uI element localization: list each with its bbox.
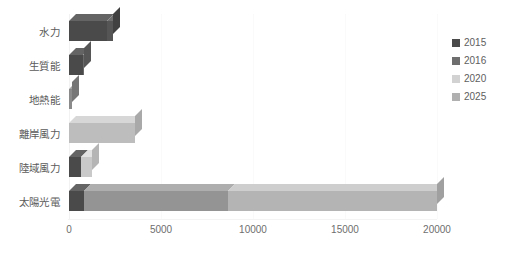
bar-stack[interactable] [69,55,84,75]
bar-segment-side-face [84,41,91,68]
bar-segment[interactable] [228,191,437,211]
x-tick-label: 0 [66,224,72,235]
legend-label: 2016 [464,56,486,66]
legend-label: 2020 [464,74,486,84]
bar-row: 離岸風力 [69,116,437,150]
legend-item[interactable]: 2025 [452,89,512,105]
bar-segment-side-face [92,143,99,170]
chart-container: 水力生質能地熱能離岸風力陸域風力太陽光電 0500010000150002000… [0,0,516,256]
legend-swatch-icon [452,57,460,65]
x-tick-label: 5000 [150,224,172,235]
bar-row: 地熱能 [69,82,437,116]
bar-row: 太陽光電 [69,184,437,218]
legend-item[interactable]: 2016 [452,53,512,69]
bar-segment[interactable] [107,21,113,41]
bar-segment-front-face [81,157,92,177]
bar-segment-side-face [113,7,120,34]
legend-swatch-icon [452,93,460,101]
bar-segment[interactable] [84,191,228,211]
bar-segment-top-face [69,116,142,123]
bar-stack[interactable] [69,89,72,109]
legend-label: 2015 [464,38,486,48]
bar-stack[interactable] [69,21,113,41]
bar-segment[interactable] [69,157,81,177]
bar-segment[interactable] [69,89,72,109]
bar-segment-front-face [84,191,228,211]
plot-area: 水力生質能地熱能離岸風力陸域風力太陽光電 [69,14,437,219]
x-tick-label: 10000 [239,224,267,235]
bar-segment[interactable] [81,157,92,177]
bar-row: 水力 [69,14,437,48]
category-label: 生質能 [29,58,60,73]
bar-segment-front-face [69,123,135,143]
bar-segment[interactable] [69,21,107,41]
bar-row: 陸域風力 [69,150,437,184]
legend-swatch-icon [452,39,460,47]
legend-label: 2025 [464,92,486,102]
bar-segment-top-face [228,184,444,191]
bar-row: 生質能 [69,48,437,82]
bar-segment-front-face [228,191,437,211]
category-label: 離岸風力 [19,126,60,141]
bar-segment-top-face [84,184,235,191]
bar-segment-side-face [437,177,444,204]
bar-segment-front-face [69,21,107,41]
bar-segment-front-face [69,157,81,177]
chart-legend: 2015201620202025 [452,35,512,107]
bar-segment-front-face [69,191,84,211]
x-tick-label: 15000 [331,224,359,235]
legend-swatch-icon [452,75,460,83]
x-tick-label: 20000 [423,224,451,235]
category-label: 地熱能 [29,92,60,107]
x-axis-line [68,219,437,220]
bar-stack[interactable] [69,191,437,211]
legend-item[interactable]: 2015 [452,35,512,51]
bar-segment[interactable] [69,55,83,75]
bar-segment[interactable] [83,55,84,75]
bar-stack[interactable] [69,157,92,177]
bar-segment[interactable] [69,123,135,143]
legend-item[interactable]: 2020 [452,71,512,87]
category-label: 水力 [39,24,60,39]
bar-segment[interactable] [69,191,84,211]
category-label: 太陽光電 [19,194,60,209]
bar-stack[interactable] [69,123,135,143]
category-label: 陸域風力 [19,160,60,175]
bar-segment-side-face [135,109,142,136]
x-axis-tick-labels: 05000100001500020000 [69,224,437,240]
bar-segment-front-face [69,55,83,75]
